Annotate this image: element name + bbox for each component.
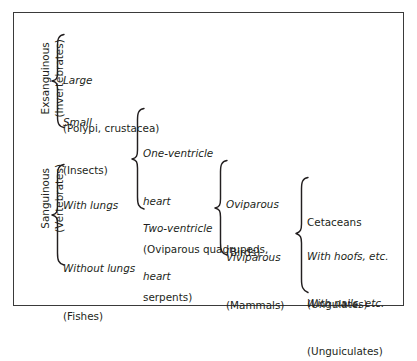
node-small-italic: Small <box>63 117 108 129</box>
node-viviparous: Viviparous (Mammals) <box>226 216 284 348</box>
node-with-lungs-italic: With lungs <box>63 200 118 212</box>
node-unguiculates-italic: With nails, etc. <box>307 298 384 310</box>
node-two-ventricle-italic-2: heart <box>143 271 212 283</box>
node-two-ventricle-italic-1: Two-ventricle <box>143 223 212 235</box>
node-unguiculates-roman: (Unguiculates) <box>307 346 384 358</box>
node-one-ventricle-italic-1: One-ventricle <box>143 148 268 160</box>
node-without-lungs: Without lungs (Fishes) <box>63 227 135 359</box>
node-two-ventricle-heart: Two-ventricle heart <box>143 187 212 319</box>
node-without-lungs-roman: (Fishes) <box>63 311 135 323</box>
node-viviparous-roman: (Mammals) <box>226 300 284 312</box>
diagram-frame: Exsanguinous (Invertebrates) Sanguinous … <box>13 12 404 306</box>
node-oviparous-italic: Oviparous <box>226 199 279 211</box>
node-viviparous-italic: Viviparous <box>226 252 284 264</box>
node-unguiculates: With nails, etc. (Unguiculates) <box>307 262 384 361</box>
node-without-lungs-italic: Without lungs <box>63 263 135 275</box>
